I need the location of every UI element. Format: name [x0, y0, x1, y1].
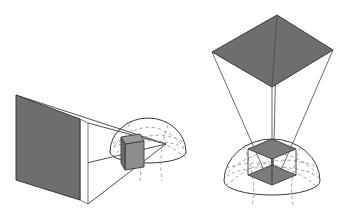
right-panel: [212, 15, 333, 206]
left-scene-box: [121, 134, 144, 170]
left-image-plane-quad: [16, 95, 80, 200]
left-image-plane-thickness: [80, 119, 88, 204]
right-scene-box: [248, 139, 296, 185]
figure-root: [0, 0, 347, 213]
projection-frustum-diagram: [0, 0, 347, 213]
hemisphere-graticule-5: [161, 125, 168, 181]
left-panel: [16, 95, 186, 204]
scene-box-side-face: [125, 141, 144, 170]
